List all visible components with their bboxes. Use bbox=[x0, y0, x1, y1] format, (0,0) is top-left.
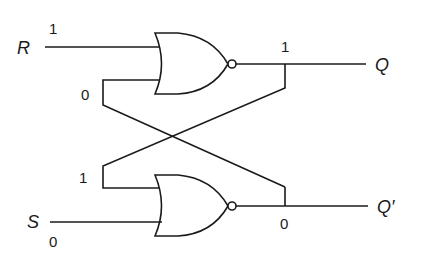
top-feedback-value: 0 bbox=[81, 86, 89, 103]
r-input-label: R bbox=[17, 38, 30, 58]
top-feedback-input-wire bbox=[103, 80, 285, 187]
q-bar-output-value: 0 bbox=[280, 215, 288, 232]
s-input-value: 0 bbox=[49, 233, 57, 250]
inversion-bubble-bottom bbox=[228, 202, 236, 210]
inversion-bubble-top bbox=[228, 60, 236, 68]
q-output-label: Q bbox=[375, 55, 389, 75]
q-bar-output-label: Q′ bbox=[377, 197, 395, 217]
nor-gate-top bbox=[155, 33, 236, 94]
q-output-value: 1 bbox=[281, 38, 289, 55]
bottom-feedback-value: 1 bbox=[79, 169, 87, 186]
nor-gate-bottom bbox=[155, 175, 236, 236]
s-input-label: S bbox=[27, 212, 39, 232]
sr-latch-diagram: R 1 0 1 Q 1 S 0 0 Q′ bbox=[0, 0, 422, 259]
r-input-value: 1 bbox=[49, 20, 57, 37]
